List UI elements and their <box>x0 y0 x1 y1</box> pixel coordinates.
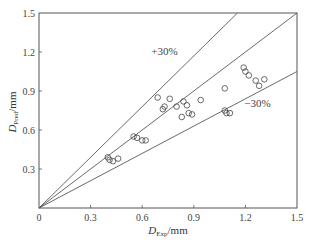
reference-line-parity <box>39 13 297 208</box>
data-point <box>167 96 173 102</box>
y-tick-label: 0.3 <box>23 164 36 175</box>
data-points <box>105 65 267 164</box>
y-tick-label: 0.6 <box>23 125 36 136</box>
data-point <box>179 114 185 120</box>
reference-line-plus30pct <box>39 13 237 208</box>
data-point <box>174 104 180 110</box>
y-tick-label: 1.2 <box>23 47 36 58</box>
x-tick-label: 1.2 <box>239 212 252 223</box>
x-tick-label: 0 <box>37 212 42 223</box>
annotation-label: +30% <box>151 45 177 57</box>
data-point <box>143 138 149 144</box>
reference-lines <box>39 13 297 208</box>
data-point <box>262 77 268 83</box>
scatter-chart: 00.30.60.91.21.50.30.60.91.21.5 +30%−30%… <box>0 0 311 240</box>
data-point <box>134 135 140 141</box>
data-point <box>256 83 262 89</box>
data-point <box>227 110 233 116</box>
x-tick-label: 1.5 <box>291 212 304 223</box>
data-point <box>155 95 161 101</box>
reference-line-minus30pct <box>39 72 297 209</box>
data-point <box>189 112 195 118</box>
data-point <box>253 78 259 84</box>
annotation-label: −30% <box>244 97 270 109</box>
data-point <box>222 86 228 92</box>
data-point <box>198 97 204 103</box>
y-tick-label: 0.9 <box>23 86 36 97</box>
data-point <box>246 73 252 79</box>
data-point <box>110 158 116 164</box>
data-point <box>186 110 192 116</box>
x-tick-label: 0.9 <box>188 212 201 223</box>
annotations: +30%−30% <box>151 45 270 109</box>
y-tick-label: 1.5 <box>23 8 36 19</box>
y-axis-label: DPred/mm <box>6 91 20 133</box>
x-tick-label: 0.3 <box>84 212 97 223</box>
data-point <box>184 103 190 109</box>
x-axis-label: DExp/mm <box>147 224 188 238</box>
data-point <box>115 156 121 162</box>
x-tick-label: 0.6 <box>136 212 149 223</box>
